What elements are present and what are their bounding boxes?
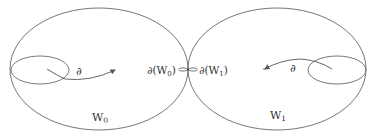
connector-right-lens — [189, 68, 198, 71]
boundary-w0-label: ∂(W0) — [147, 64, 176, 78]
right-arrow-label: ∂ — [290, 62, 296, 75]
left-arrow-label: ∂ — [76, 65, 82, 78]
region-w1-label: W1 — [270, 109, 286, 123]
tangency-point — [187, 68, 189, 70]
connector-left-lens — [179, 68, 188, 71]
boundary-w1-label: ∂(W1) — [199, 64, 228, 78]
diagram-canvas: ∂ ∂ ∂(W0) ∂(W1) W0 W1 — [0, 0, 374, 135]
right-boundary-arrow — [265, 59, 332, 69]
region-w0-label: W0 — [92, 111, 108, 125]
left-loop-ellipse — [11, 56, 69, 84]
right-arrow-dot — [263, 68, 265, 70]
right-loop-ellipse — [308, 56, 366, 84]
